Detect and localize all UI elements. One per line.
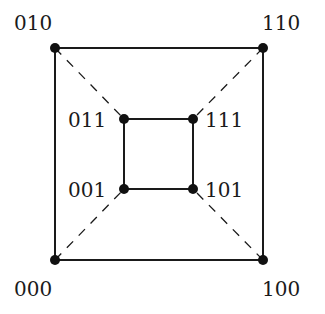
vertex-001 — [119, 184, 129, 194]
vertex-111 — [188, 114, 198, 124]
vertex-000 — [50, 255, 60, 265]
vertex-label-101: 101 — [205, 178, 243, 202]
vertex-label-110: 110 — [262, 11, 300, 35]
vertex-label-111: 111 — [205, 108, 243, 132]
vertex-label-001: 001 — [68, 178, 106, 202]
edges-layer — [55, 48, 263, 260]
vertex-label-010: 010 — [14, 11, 52, 35]
vertex-100 — [258, 255, 268, 265]
vertex-010 — [50, 43, 60, 53]
vertex-011 — [119, 114, 129, 124]
hypercube-diagram: 010110011111001101000100 — [0, 0, 325, 314]
vertex-label-100: 100 — [262, 277, 300, 301]
vertex-label-011: 011 — [68, 108, 106, 132]
vertex-101 — [188, 184, 198, 194]
vertex-label-000: 000 — [14, 277, 52, 301]
vertex-110 — [258, 43, 268, 53]
